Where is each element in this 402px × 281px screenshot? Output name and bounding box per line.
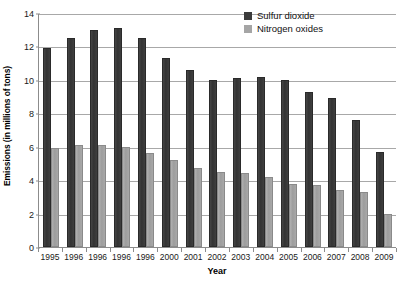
x-tick-label: 1996	[86, 252, 110, 266]
x-tick-mark	[396, 248, 397, 252]
bar-nitrogen-oxides[interactable]	[336, 190, 344, 247]
bar-chart: Emissions (in millions of tons) 02468101…	[0, 0, 402, 281]
bar-group	[87, 14, 111, 247]
x-tick-label: 2004	[253, 252, 277, 266]
y-axis-tick-labels: 02468101214	[14, 14, 36, 248]
bar-group	[110, 14, 134, 247]
y-tick-label: 10	[24, 76, 34, 86]
bar-group	[39, 14, 63, 247]
x-tick-label: 2003	[229, 252, 253, 266]
x-tick-label: 2009	[372, 252, 396, 266]
legend-entry[interactable]: Sulfur dioxide	[244, 10, 323, 21]
bar-sulfur-dioxide[interactable]	[43, 48, 51, 247]
x-axis-title: Year	[38, 266, 396, 276]
bar-sulfur-dioxide[interactable]	[138, 38, 146, 247]
bar-group	[372, 14, 396, 247]
legend-label: Sulfur dioxide	[257, 10, 315, 21]
bar-sulfur-dioxide[interactable]	[257, 77, 265, 247]
bar-group	[325, 14, 349, 247]
bar-sulfur-dioxide[interactable]	[376, 152, 384, 247]
bar-nitrogen-oxides[interactable]	[98, 145, 106, 247]
x-tick-label: 2001	[181, 252, 205, 266]
bar-group	[182, 14, 206, 247]
bar-group	[134, 14, 158, 247]
bar-group	[253, 14, 277, 247]
x-tick-label: 2008	[348, 252, 372, 266]
bar-nitrogen-oxides[interactable]	[265, 177, 273, 247]
bar-nitrogen-oxides[interactable]	[170, 160, 178, 247]
x-tick-label: 1996	[110, 252, 134, 266]
x-tick-label: 2000	[157, 252, 181, 266]
bar-sulfur-dioxide[interactable]	[162, 58, 170, 247]
bar-sulfur-dioxide[interactable]	[352, 120, 360, 247]
bar-nitrogen-oxides[interactable]	[384, 214, 392, 247]
legend-entry[interactable]: Nitrogen oxides	[244, 23, 323, 34]
bar-nitrogen-oxides[interactable]	[289, 184, 297, 248]
bar-nitrogen-oxides[interactable]	[217, 172, 225, 247]
y-tick-label: 12	[24, 42, 34, 52]
bar-sulfur-dioxide[interactable]	[281, 80, 289, 247]
legend-swatch-so2-icon	[244, 12, 252, 20]
y-tick-label: 4	[29, 176, 34, 186]
chart-legend: Sulfur dioxideNitrogen oxides	[244, 10, 323, 34]
bar-nitrogen-oxides[interactable]	[194, 168, 202, 247]
x-tick-label: 2007	[324, 252, 348, 266]
bar-sulfur-dioxide[interactable]	[186, 70, 194, 247]
bar-group	[158, 14, 182, 247]
bar-group	[348, 14, 372, 247]
bars-layer	[39, 14, 396, 247]
bar-group	[229, 14, 253, 247]
x-tick-label: 1995	[38, 252, 62, 266]
bar-sulfur-dioxide[interactable]	[305, 92, 313, 247]
y-tick-label: 6	[29, 143, 34, 153]
bar-nitrogen-oxides[interactable]	[241, 173, 249, 247]
bar-nitrogen-oxides[interactable]	[51, 148, 59, 247]
bar-nitrogen-oxides[interactable]	[75, 145, 83, 247]
bar-group	[277, 14, 301, 247]
y-tick-label: 14	[24, 9, 34, 19]
bar-sulfur-dioxide[interactable]	[90, 30, 98, 247]
y-tick-label: 8	[29, 109, 34, 119]
legend-swatch-nox-icon	[244, 25, 252, 33]
x-axis-tick-labels: 1995199619961996199620002001200220032004…	[38, 252, 396, 266]
x-tick-label: 2006	[300, 252, 324, 266]
y-tick-label: 0	[29, 243, 34, 253]
bar-group	[206, 14, 230, 247]
plot-area	[38, 14, 396, 248]
x-tick-label: 1996	[62, 252, 86, 266]
y-tick-label: 2	[29, 210, 34, 220]
bar-sulfur-dioxide[interactable]	[209, 80, 217, 247]
bar-sulfur-dioxide[interactable]	[328, 98, 336, 247]
y-axis-title: Emissions (in millions of tons)	[0, 2, 14, 250]
bar-nitrogen-oxides[interactable]	[360, 192, 368, 247]
x-tick-label: 2005	[277, 252, 301, 266]
bar-group	[63, 14, 87, 247]
x-tick-label: 1996	[133, 252, 157, 266]
bar-nitrogen-oxides[interactable]	[122, 147, 130, 247]
bar-nitrogen-oxides[interactable]	[313, 185, 321, 247]
bar-sulfur-dioxide[interactable]	[67, 38, 75, 247]
bar-sulfur-dioxide[interactable]	[233, 78, 241, 247]
bar-group	[301, 14, 325, 247]
bar-nitrogen-oxides[interactable]	[146, 153, 154, 247]
legend-label: Nitrogen oxides	[257, 23, 323, 34]
bar-sulfur-dioxide[interactable]	[114, 28, 122, 247]
x-tick-label: 2002	[205, 252, 229, 266]
